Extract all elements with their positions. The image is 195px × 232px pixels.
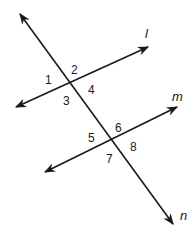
lines-group [16,14,177,224]
line-label-l: l [145,26,149,41]
angle-label-5: 5 [88,131,95,145]
angle-label-4: 4 [88,83,95,97]
angle-label-7: 7 [106,152,113,166]
angle-labels-group: 12345678 [45,63,137,166]
angle-label-8: 8 [130,140,137,154]
line-label-m: m [172,89,183,104]
angle-label-1: 1 [45,73,52,87]
angle-label-3: 3 [63,94,70,108]
angle-label-6: 6 [115,121,122,135]
parallel-lines-transversal-diagram: lmn 12345678 [0,0,195,232]
angle-label-2: 2 [71,63,78,77]
line-label-n: n [180,208,187,223]
line-n [20,14,173,224]
